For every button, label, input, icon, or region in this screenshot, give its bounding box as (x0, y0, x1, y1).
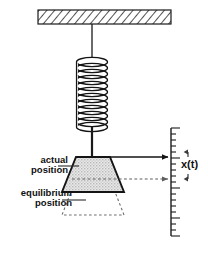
label-equilibrium-position: equilibrium position (2, 188, 72, 209)
label-actual-position: actual position (6, 155, 68, 176)
label-actual-position-line2: position (6, 165, 68, 175)
measurement-scale (171, 128, 180, 236)
label-equilibrium-position-line2: position (2, 198, 72, 208)
label-displacement-xt: x(t) (181, 159, 198, 171)
ruler-ticks (171, 128, 180, 236)
mass-spring-diagram: actual position equilibrium position x(t… (0, 0, 208, 256)
hatched-ceiling-support (38, 10, 171, 24)
ceiling-hatch-band (38, 10, 171, 24)
coil-spring (77, 57, 108, 131)
diagram-canvas (0, 0, 208, 256)
